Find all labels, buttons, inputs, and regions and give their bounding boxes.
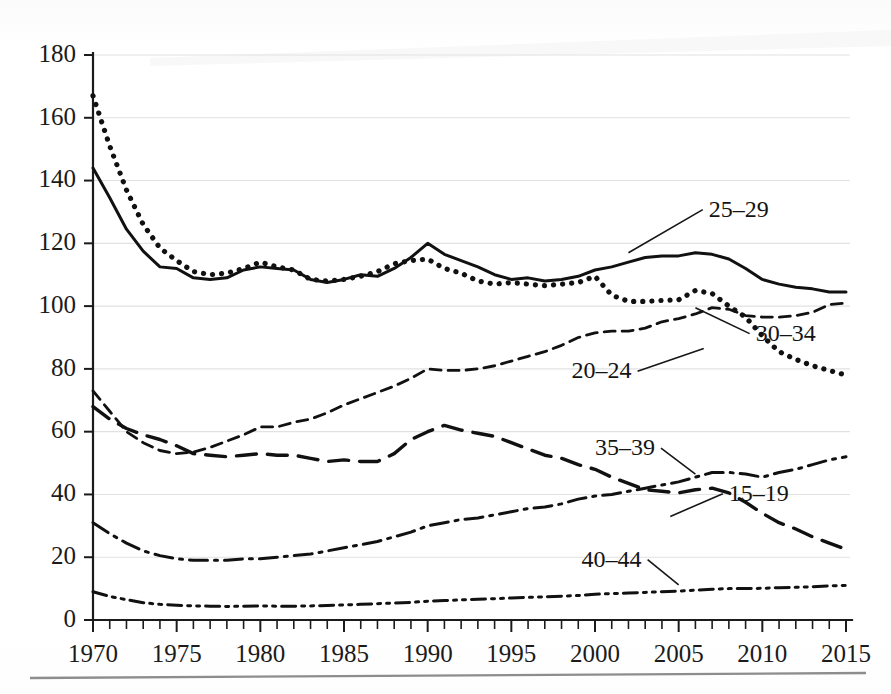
series-line-15-19 bbox=[93, 407, 846, 550]
series-line-40-44 bbox=[93, 585, 846, 606]
series-line-20-24 bbox=[93, 96, 846, 375]
annotation-leader-line bbox=[670, 494, 723, 517]
y-tick-label: 100 bbox=[39, 291, 77, 318]
x-tick-label: 1980 bbox=[235, 640, 285, 667]
y-tick-label: 140 bbox=[39, 165, 77, 192]
annotation-leader-line bbox=[628, 210, 702, 253]
y-tick-label: 20 bbox=[51, 542, 76, 569]
page-bottom-rule bbox=[30, 673, 866, 678]
x-tick-label: 2005 bbox=[654, 640, 704, 667]
y-tick-label: 0 bbox=[64, 605, 77, 632]
annotation-leader-line bbox=[661, 448, 695, 474]
y-tick-label: 80 bbox=[51, 354, 76, 381]
y-tick-label: 120 bbox=[39, 228, 77, 255]
series-annotation-30-34: 30–34 bbox=[756, 320, 816, 346]
y-tick-label: 40 bbox=[51, 479, 76, 506]
x-tick-label: 2000 bbox=[570, 640, 620, 667]
chart-figure: 0204060801001201401601801970197519801985… bbox=[0, 0, 891, 694]
annotation-leader-line bbox=[638, 348, 704, 371]
series-annotation-35-39: 35–39 bbox=[595, 434, 655, 460]
y-tick-label: 180 bbox=[39, 40, 77, 67]
series-line-35-39 bbox=[93, 457, 846, 561]
series-annotation-25-29: 25–29 bbox=[709, 196, 769, 222]
annotation-leader-line bbox=[648, 560, 679, 585]
line-chart-canvas: 0204060801001201401601801970197519801985… bbox=[0, 0, 891, 694]
x-tick-label: 2010 bbox=[737, 640, 787, 667]
x-tick-label: 2015 bbox=[821, 640, 871, 667]
x-tick-label: 1975 bbox=[152, 640, 202, 667]
y-tick-label: 160 bbox=[39, 103, 77, 130]
series-annotation-15-19: 15–19 bbox=[729, 480, 789, 506]
scan-smudge bbox=[150, 30, 891, 66]
y-tick-label: 60 bbox=[51, 416, 76, 443]
x-tick-label: 1995 bbox=[486, 640, 536, 667]
series-annotation-40-44: 40–44 bbox=[582, 546, 642, 572]
annotation-leader-line bbox=[695, 308, 749, 334]
x-tick-label: 1970 bbox=[68, 640, 118, 667]
x-tick-label: 1990 bbox=[403, 640, 453, 667]
series-annotation-20-24: 20–24 bbox=[572, 357, 632, 383]
x-tick-label: 1985 bbox=[319, 640, 369, 667]
